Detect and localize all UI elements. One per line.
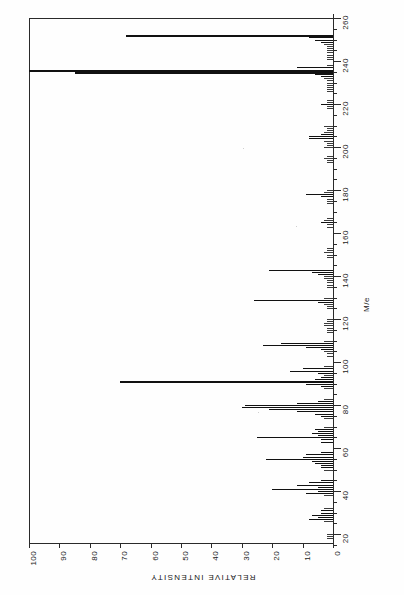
mass-axis-minor-tick <box>333 298 337 299</box>
intensity-axis-tick <box>59 543 60 548</box>
mass-axis-minor-tick <box>333 115 337 116</box>
spectrum-peak <box>318 431 333 432</box>
spectrum-peak <box>327 203 333 204</box>
spectrum-peak <box>312 272 333 273</box>
intensity-axis-title: RELATIVE INTENSITY <box>150 573 256 582</box>
spectrum-peak <box>327 250 333 251</box>
spectrum-peak <box>327 282 333 283</box>
spectrum-peak <box>303 457 333 458</box>
mass-axis-label: 20 <box>341 534 350 544</box>
spectrum-peak <box>269 409 333 410</box>
mass-axis-minor-tick <box>333 136 337 137</box>
mass-axis-label: 200 <box>341 144 350 159</box>
mass-axis-label: 180 <box>341 187 350 202</box>
spectrum-peak <box>321 196 333 197</box>
spectrum-peak <box>327 85 333 86</box>
spectrum-peak <box>327 353 333 354</box>
spectrum-peak <box>315 379 333 380</box>
scan-artifact <box>258 412 259 413</box>
spectrum-peak <box>327 332 333 333</box>
intensity-axis-tick <box>272 543 273 548</box>
spectrum-peak <box>318 401 333 402</box>
spectrum-peak <box>290 371 333 372</box>
spectrum-peak <box>324 147 333 148</box>
spectrum-peak <box>327 199 333 200</box>
spectrum-peak <box>327 65 333 66</box>
mass-axis-minor-tick <box>333 169 337 170</box>
mass-axis-minor-tick <box>333 470 337 471</box>
spectrum-peak <box>324 192 333 193</box>
spectrum-peak <box>324 427 333 428</box>
spectrum-peak <box>327 100 333 101</box>
intensity-axis-label: 40 <box>211 551 220 561</box>
intensity-axis-label: 30 <box>242 551 251 561</box>
mass-axis-title: M/e <box>362 297 371 312</box>
spectrum-peak <box>324 158 333 159</box>
spectrum-peak <box>324 141 333 142</box>
spectrum-peak <box>315 40 333 41</box>
spectrum-peak <box>306 347 333 348</box>
spectrum-peak <box>327 80 333 81</box>
spectrum-peak <box>324 418 333 419</box>
mass-axis-label: 120 <box>341 316 350 331</box>
spectrum-peak <box>309 482 333 483</box>
mass-axis-minor-tick <box>333 502 337 503</box>
spectrum-peak <box>318 487 333 488</box>
spectrum-peak <box>126 35 333 37</box>
spectrum-peak <box>312 433 333 434</box>
spectrum-peak <box>324 276 333 277</box>
spectrum-peak <box>324 44 333 45</box>
mass-axis-label: 80 <box>341 405 350 415</box>
spectrum-peak <box>327 257 333 258</box>
mass-axis-minor-tick <box>333 212 337 213</box>
mass-axis-minor-tick <box>333 437 337 438</box>
mass-axis-minor-tick <box>333 83 337 84</box>
mass-axis-minor-tick <box>333 201 337 202</box>
spectrum-peak <box>327 248 333 249</box>
spectrum-peak <box>318 517 333 518</box>
mass-axis-minor-tick <box>333 265 337 266</box>
spectrum-peak <box>327 538 333 539</box>
spectrum-peak <box>324 388 333 389</box>
intensity-axis-label: 20 <box>272 551 281 561</box>
spectrum-peak <box>327 57 333 58</box>
spectrum-peak <box>309 136 333 137</box>
mass-axis-minor-tick <box>333 330 337 331</box>
spectrum-peak <box>315 74 333 75</box>
spectrum-peak <box>321 134 333 135</box>
mass-axis-minor-tick <box>333 158 337 159</box>
spectrum-peak <box>266 459 333 460</box>
spectrum-peak <box>318 274 333 275</box>
spectrum-peak <box>324 399 333 400</box>
mass-axis-minor-tick <box>333 341 337 342</box>
spectrum-peaks <box>0 0 334 595</box>
spectrum-peak <box>318 435 333 436</box>
spectrum-peak <box>297 403 333 404</box>
spectrum-peak <box>327 59 333 60</box>
intensity-axis-label: 70 <box>120 551 129 561</box>
mass-axis-label: 100 <box>341 359 350 374</box>
mass-axis-minor-tick <box>333 179 337 180</box>
mass-axis-minor-tick <box>333 29 337 30</box>
spectrum-peak <box>120 381 333 383</box>
intensity-axis-label: 0 <box>333 551 342 556</box>
intensity-axis-tick <box>181 543 182 548</box>
spectrum-peak <box>315 414 333 415</box>
spectrum-peak <box>324 341 333 342</box>
spectrum-peak <box>254 300 333 301</box>
spectrum-peak <box>327 328 333 329</box>
intensity-axis-label: 80 <box>90 551 99 561</box>
mass-axis-minor-tick <box>333 40 337 41</box>
spectrum-peak <box>327 218 333 219</box>
intensity-axis-label: 50 <box>181 551 190 561</box>
spectrum-peak <box>327 106 333 107</box>
spectrum-peak <box>318 302 333 303</box>
spectrum-peak <box>324 521 333 522</box>
intensity-axis-tick <box>333 543 334 548</box>
mass-axis-minor-tick <box>333 459 337 460</box>
spectrum-peak <box>269 270 333 271</box>
mass-axis-minor-tick <box>333 93 337 94</box>
spectrum-peak <box>303 368 333 369</box>
scan-artifact <box>296 226 297 227</box>
spectrum-peak <box>324 508 333 509</box>
